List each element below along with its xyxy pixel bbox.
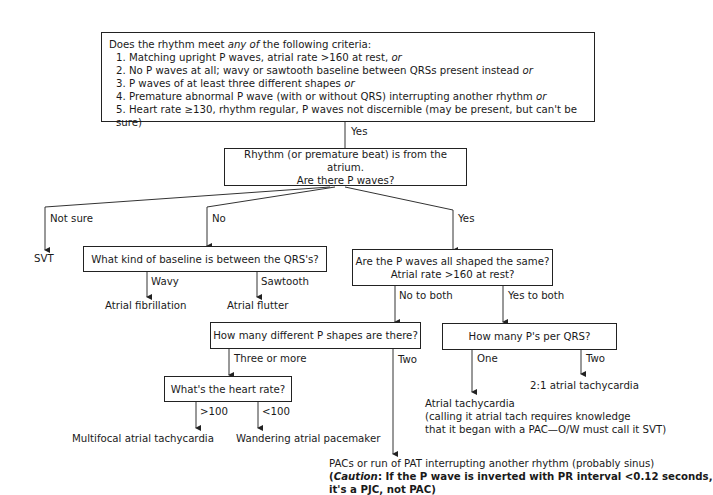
edge-label-three-or-more: Three or more bbox=[234, 352, 306, 365]
atrial-tach-line2: (calling it atrial tach requires knowled… bbox=[425, 410, 666, 423]
outcome-pacs-or-pat: PACs or run of PAT interrupting another … bbox=[329, 457, 713, 495]
edge-label-two-shapes: Two bbox=[398, 353, 417, 366]
edge-label-not-sure: Not sure bbox=[50, 212, 93, 225]
atrium-question-line2: Are there P waves? bbox=[225, 174, 466, 187]
heart-rate-question-box: What's the heart rate? bbox=[164, 376, 292, 402]
criteria-box: Does the rhythm meet any of the followin… bbox=[101, 32, 595, 122]
criteria-item-4: 4. Premature abnormal P wave (with or wi… bbox=[109, 90, 594, 103]
ps-per-qrs-question-box: How many P's per QRS? bbox=[442, 323, 617, 350]
outcome-svt: SVT bbox=[34, 252, 54, 265]
outcome-multifocal-atrial-tachycardia: Multifocal atrial tachycardia bbox=[72, 432, 214, 445]
edge-label-sawtooth: Sawtooth bbox=[261, 275, 309, 288]
criteria-item-text: 5. Heart rate ≥130, rhythm regular, P wa… bbox=[116, 104, 577, 128]
criteria-item-or: or bbox=[536, 91, 546, 102]
edge-label-wavy: Wavy bbox=[151, 275, 179, 288]
atrium-question-line1: Rhythm (or premature beat) is from the a… bbox=[225, 148, 466, 174]
criteria-item-text: 3. P waves of at least three different s… bbox=[116, 78, 344, 89]
atrial-tach-line1: Atrial tachycardia bbox=[425, 397, 666, 410]
outcome-atrial-flutter: Atrial flutter bbox=[227, 299, 288, 312]
pac-line3: it's a PJC, not PAC) bbox=[329, 483, 713, 495]
p-waves-shape-question-line1: Are the P waves all shaped the same? bbox=[353, 255, 552, 268]
p-shapes-count-question-text: How many different P shapes are there? bbox=[211, 329, 420, 342]
edge-label-lt100: <100 bbox=[262, 405, 290, 418]
criteria-item-text: 4. Premature abnormal P wave (with or wi… bbox=[116, 91, 536, 102]
edge-label-one: One bbox=[477, 352, 498, 365]
edge-label-yes-to-both: Yes to both bbox=[508, 289, 564, 302]
p-waves-shape-question-line2: Atrial rate >160 at rest? bbox=[353, 268, 552, 281]
outcome-2-to-1-atrial-tachycardia: 2:1 atrial tachycardia bbox=[530, 379, 639, 392]
outcome-atrial-tachycardia: Atrial tachycardia (calling it atrial ta… bbox=[425, 397, 666, 436]
p-shapes-count-question-box: How many different P shapes are there? bbox=[210, 322, 421, 349]
criteria-item-text: 2. No P waves at all; wavy or sawtooth b… bbox=[116, 65, 523, 76]
criteria-intro-emphasis: any of bbox=[228, 39, 260, 50]
criteria-item-or: or bbox=[344, 78, 354, 89]
ps-per-qrs-question-text: How many P's per QRS? bbox=[443, 330, 616, 343]
edge-label-yes-right: Yes bbox=[458, 212, 474, 225]
criteria-intro-text: Does the rhythm meet bbox=[109, 39, 228, 50]
criteria-item-or: or bbox=[391, 52, 401, 63]
edge-label-no-to-both: No to both bbox=[399, 289, 453, 302]
edge-label-yes-top: Yes bbox=[351, 125, 367, 138]
edge-label-two-ps: Two bbox=[586, 352, 605, 365]
criteria-item-text: 1. Matching upright P waves, atrial rate… bbox=[116, 52, 391, 63]
baseline-question-text: What kind of baseline is between the QRS… bbox=[84, 253, 326, 266]
outcome-atrial-fibrillation: Atrial fibrillation bbox=[105, 299, 186, 312]
pac-line1: PACs or run of PAT interrupting another … bbox=[329, 457, 713, 470]
pac-caution-word: Caution bbox=[334, 471, 378, 482]
criteria-item-3: 3. P waves of at least three different s… bbox=[109, 77, 594, 90]
p-waves-shape-question-box: Are the P waves all shaped the same? Atr… bbox=[352, 249, 553, 286]
criteria-intro: Does the rhythm meet any of the followin… bbox=[109, 38, 594, 51]
criteria-item-2: 2. No P waves at all; wavy or sawtooth b… bbox=[109, 64, 594, 77]
edge-label-no: No bbox=[212, 212, 226, 225]
atrium-question-box: Rhythm (or premature beat) is from the a… bbox=[224, 148, 467, 186]
outcome-wandering-atrial-pacemaker: Wandering atrial pacemaker bbox=[236, 432, 380, 445]
baseline-question-box: What kind of baseline is between the QRS… bbox=[83, 246, 327, 272]
pac-caution-line: (Caution: If the P wave is inverted with… bbox=[329, 470, 713, 483]
heart-rate-question-text: What's the heart rate? bbox=[165, 383, 291, 396]
criteria-item-or: or bbox=[523, 65, 533, 76]
edge-label-gt100: >100 bbox=[200, 405, 228, 418]
criteria-item-1: 1. Matching upright P waves, atrial rate… bbox=[109, 51, 594, 64]
atrial-tach-line3: that it began with a PAC—O/W must call i… bbox=[425, 423, 666, 436]
criteria-intro-text-end: the following criteria: bbox=[259, 39, 371, 50]
pac-caution-text: : If the P wave is inverted with PR inte… bbox=[378, 471, 713, 482]
